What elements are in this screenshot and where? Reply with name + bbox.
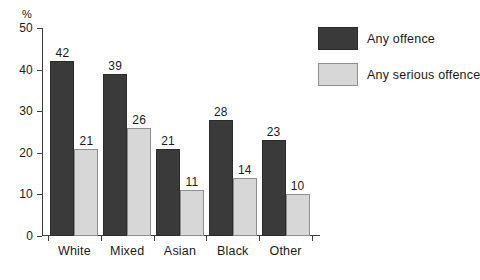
x-category-label: Other xyxy=(269,244,301,258)
y-tick-mark xyxy=(37,111,42,112)
bar-value-label: 28 xyxy=(214,105,228,119)
y-tick-mark xyxy=(37,70,42,71)
y-axis-unit-label: % xyxy=(22,8,32,20)
bar: 14 xyxy=(233,178,257,236)
legend-label-any-serious-offence: Any serious offence xyxy=(367,68,480,82)
x-tick-mark xyxy=(48,236,49,241)
y-tick-mark xyxy=(37,236,42,237)
legend-label-any-offence: Any offence xyxy=(367,32,435,46)
y-axis-line xyxy=(42,28,43,236)
bar-group: 2814Black xyxy=(209,28,257,236)
x-category-label: Asian xyxy=(164,244,196,258)
bar-group: 2310Other xyxy=(262,28,310,236)
y-tick-label: 20 xyxy=(19,146,33,160)
x-category-label: Black xyxy=(217,244,249,258)
bar: 10 xyxy=(286,194,310,236)
x-tick-mark xyxy=(154,236,155,241)
plot-area: 01020304050 4221White3926Mixed2111Asian2… xyxy=(42,28,312,236)
bar-value-label: 11 xyxy=(186,175,199,189)
bar-value-label: 21 xyxy=(80,134,94,148)
bar: 28 xyxy=(209,120,233,236)
x-tick-mark xyxy=(206,236,207,241)
chart-legend: Any offence Any serious offence xyxy=(318,27,480,99)
bar-value-label: 14 xyxy=(238,163,252,177)
bar-group: 3926Mixed xyxy=(103,28,151,236)
bar-value-label: 26 xyxy=(132,113,146,127)
bar: 21 xyxy=(74,149,98,236)
bar: 23 xyxy=(262,140,286,236)
x-category-label: Mixed xyxy=(110,244,144,258)
legend-item-any-serious-offence: Any serious offence xyxy=(318,63,480,86)
bar-value-label: 21 xyxy=(161,134,175,148)
bar-group: 2111Asian xyxy=(156,28,204,236)
y-tick-mark xyxy=(37,153,42,154)
x-tick-mark xyxy=(101,236,102,241)
bar: 26 xyxy=(127,128,151,236)
bar: 21 xyxy=(156,149,180,236)
y-tick-label: 0 xyxy=(26,229,33,243)
bar: 42 xyxy=(50,61,74,236)
bar-value-label: 10 xyxy=(291,179,305,193)
bar-value-label: 39 xyxy=(108,59,122,73)
legend-item-any-offence: Any offence xyxy=(318,27,480,50)
y-tick-label: 30 xyxy=(19,104,33,118)
y-tick-mark xyxy=(37,194,42,195)
x-category-label: White xyxy=(58,244,91,258)
bar: 11 xyxy=(180,190,204,236)
bar-value-label: 23 xyxy=(267,125,281,139)
legend-swatch-any-offence xyxy=(318,27,358,50)
x-tick-mark xyxy=(312,236,313,241)
legend-swatch-any-serious-offence xyxy=(318,63,358,86)
y-tick-mark xyxy=(37,28,42,29)
bar-value-label: 42 xyxy=(56,46,70,60)
x-tick-mark xyxy=(259,236,260,241)
y-tick-label: 50 xyxy=(19,21,33,35)
bar-group: 4221White xyxy=(50,28,98,236)
bar: 39 xyxy=(103,74,127,236)
y-tick-label: 40 xyxy=(19,63,33,77)
y-tick-label: 10 xyxy=(19,187,33,201)
